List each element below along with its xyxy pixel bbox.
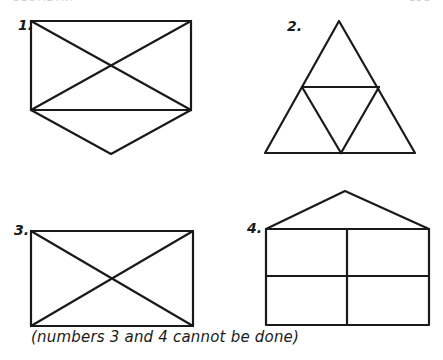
figure-3-shape <box>31 231 193 326</box>
figures-drawing <box>0 0 443 360</box>
figure-3-label: 3. <box>14 222 29 238</box>
figure-4-label: 4. <box>247 220 262 236</box>
figure-4-shape <box>266 191 429 325</box>
figure-2-label: 2. <box>287 18 302 34</box>
figure-1-shape <box>31 21 191 154</box>
figure-2-shape <box>265 21 415 153</box>
figure-1-label: 1. <box>18 17 33 33</box>
figure-caption: (numbers 3 and 4 cannot be done) <box>31 328 299 346</box>
